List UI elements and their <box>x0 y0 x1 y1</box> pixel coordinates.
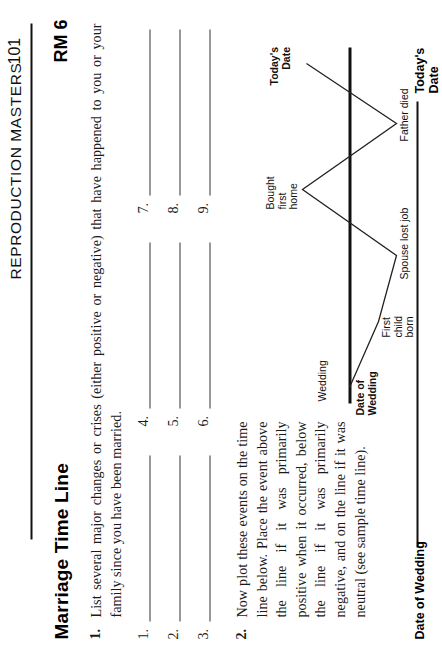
page-header: REPRODUCTION MASTERS 101 <box>0 0 40 661</box>
chart-series-line <box>302 63 396 387</box>
header-rule <box>30 23 32 539</box>
answer-blank-line[interactable] <box>149 242 150 408</box>
answer-number: 3. <box>194 628 211 639</box>
question-1-number: 1. <box>86 628 103 639</box>
question-2-number: 2. <box>232 628 249 639</box>
header-masters-label: REPRODUCTION MASTERS <box>6 62 24 279</box>
answer-row[interactable]: 9. <box>188 23 218 213</box>
answer-blank-line[interactable] <box>149 29 150 195</box>
chart-point-label-first-child-born: First child born <box>380 315 415 337</box>
answer-lines: 1. 2. 3. 4. 5. <box>128 23 224 639</box>
answer-row[interactable]: 3. <box>188 449 218 639</box>
chart-label-date-of-wedding: Date of Wedding <box>354 371 377 415</box>
answer-blank-line[interactable] <box>179 29 180 195</box>
answer-blank-line[interactable] <box>179 242 180 408</box>
answer-row[interactable]: 5. <box>158 236 188 426</box>
answer-column-1: 1. 2. 3. <box>128 449 218 639</box>
answer-column-3: 7. 8. 9. <box>128 23 218 213</box>
answer-row[interactable]: 7. <box>128 23 158 213</box>
answer-row[interactable]: 4. <box>128 236 158 426</box>
chart-point-label-spouse-lost-job: Spouse lost job <box>398 207 410 279</box>
chart-point-label-wedding: Wedding <box>316 360 328 401</box>
page-content: REPRODUCTION MASTERS 101 Marriage Time L… <box>0 0 442 661</box>
answer-number: 9. <box>194 202 211 213</box>
question-1-text: List several major changes or crises (ei… <box>86 23 125 617</box>
worksheet-page: REPRODUCTION MASTERS 101 Marriage Time L… <box>0 0 442 661</box>
answer-blank-line[interactable] <box>209 29 210 195</box>
chart-plot <box>228 23 410 415</box>
worksheet-timeline-line[interactable] <box>416 101 418 547</box>
answer-blank-line[interactable] <box>149 455 150 621</box>
answer-blank-line[interactable] <box>209 455 210 621</box>
answer-blank-line[interactable] <box>179 455 180 621</box>
answer-row[interactable]: 6. <box>188 236 218 426</box>
document-code: RM 6 <box>50 19 71 62</box>
answer-number: 4. <box>134 415 151 426</box>
chart-point-label-father-died: Father died <box>398 88 410 141</box>
page-number: 101 <box>5 37 23 64</box>
answer-number: 6. <box>194 415 211 426</box>
page-title: Marriage Time Line <box>50 463 72 639</box>
answer-number: 5. <box>164 415 181 426</box>
answer-row[interactable]: 8. <box>158 23 188 213</box>
answer-column-2: 4. 5. 6. <box>128 236 218 426</box>
answer-number: 2. <box>164 628 181 639</box>
answer-number: 7. <box>134 202 151 213</box>
chart-label-todays-date: Today's Date <box>268 47 291 85</box>
question-2-text: Now plot these events on the time line b… <box>232 421 369 617</box>
answer-blank-line[interactable] <box>209 242 210 408</box>
sample-timeline-chart: Wedding First child born Spouse lost job… <box>228 23 410 415</box>
answer-number: 1. <box>134 628 151 639</box>
chart-point-label-bought-first-home: Bought first home <box>264 176 299 209</box>
answer-row[interactable]: 1. <box>128 449 158 639</box>
worksheet-timeline-start-label: Date of Wedding <box>412 541 426 639</box>
worksheet-timeline-end-label: Today's Date <box>412 23 440 93</box>
answer-number: 8. <box>164 202 181 213</box>
answer-row[interactable]: 2. <box>158 449 188 639</box>
